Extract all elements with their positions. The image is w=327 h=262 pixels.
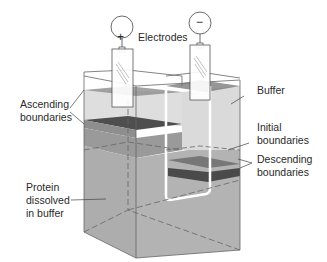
- initial-boundaries-label-1: Initial: [257, 121, 282, 134]
- cathode-symbol: −: [196, 16, 203, 29]
- initial-boundaries-label-2: boundaries: [257, 134, 309, 147]
- protein-label-2: dissolved: [26, 194, 70, 207]
- descending-boundaries-label-2: boundaries: [257, 166, 309, 179]
- protein-label-3: in buffer: [26, 207, 64, 220]
- ascending-boundaries-label-1: Ascending: [20, 98, 69, 111]
- ascending-boundaries-label-2: boundaries: [20, 111, 72, 124]
- buffer-label: Buffer: [257, 84, 285, 97]
- electrodes-label: Electrodes: [138, 31, 188, 44]
- protein-label-1: Protein: [26, 181, 59, 194]
- descending-boundaries-label-1: Descending: [257, 153, 312, 166]
- anode-symbol: +: [117, 31, 124, 44]
